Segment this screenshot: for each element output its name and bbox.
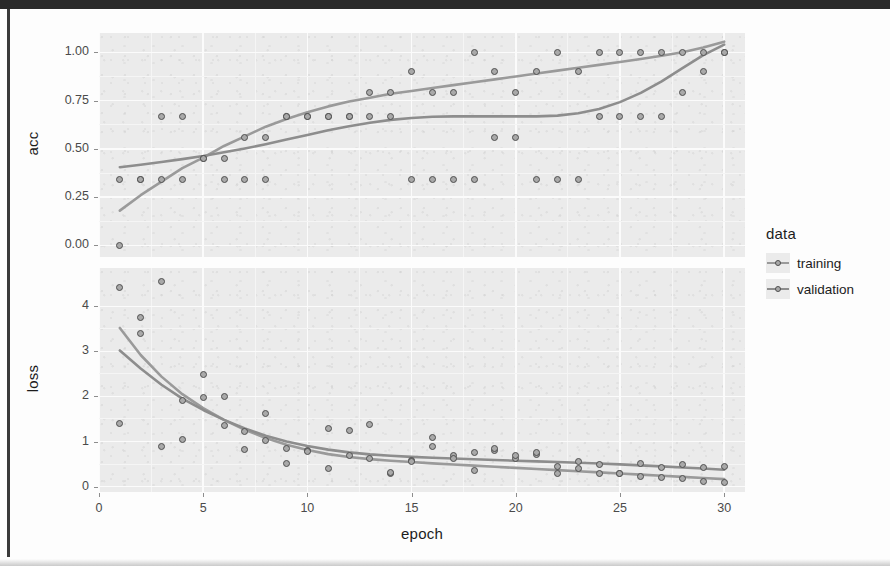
data-point: [637, 460, 644, 467]
data-point: [450, 455, 457, 462]
y-tick-mark: [94, 396, 98, 397]
data-point: [616, 470, 623, 477]
data-point: [221, 422, 228, 429]
gridline-vertical-minor: [359, 33, 360, 257]
data-point: [283, 113, 290, 120]
figure-plot-area: 0.000.250.500.751.00acc01234loss05101520…: [0, 0, 890, 566]
gridline-vertical: [202, 33, 204, 257]
data-point: [116, 284, 123, 291]
gridline-horizontal: [99, 306, 745, 308]
data-point: [262, 176, 269, 183]
data-point: [116, 242, 123, 249]
y-tick-mark: [94, 351, 98, 352]
x-tick-mark: [620, 493, 621, 497]
gridline-horizontal-minor: [99, 221, 745, 222]
scanned-page: 0.000.250.500.751.00acc01234loss05101520…: [0, 0, 890, 566]
data-point: [137, 176, 144, 183]
data-point: [575, 176, 582, 183]
gridline-vertical: [619, 33, 621, 257]
x-tick-mark: [516, 493, 517, 497]
data-point: [637, 473, 644, 480]
data-point: [283, 445, 290, 452]
gridline-vertical-minor: [255, 33, 256, 257]
gridline-horizontal: [99, 196, 745, 198]
data-point: [346, 427, 353, 434]
gridline-vertical-minor: [255, 268, 256, 492]
gridline-vertical: [411, 33, 413, 257]
data-point: [221, 393, 228, 400]
data-point: [450, 89, 457, 96]
gridline-vertical-minor: [567, 33, 568, 257]
data-point: [596, 49, 603, 56]
legend-item-training[interactable]: training: [766, 252, 884, 274]
x-tick-label: 10: [282, 501, 332, 515]
data-point: [491, 134, 498, 141]
y-tick-label: 0.25: [37, 189, 89, 203]
gridline-vertical: [723, 33, 725, 257]
data-point: [158, 278, 165, 285]
data-point: [304, 448, 311, 455]
data-point: [533, 176, 540, 183]
trend-line-validation: [120, 350, 724, 469]
data-point: [679, 461, 686, 468]
data-point: [241, 134, 248, 141]
x-tick-mark: [724, 493, 725, 497]
legend-label-validation: validation: [797, 282, 854, 297]
data-point: [200, 155, 207, 162]
gridline-vertical: [99, 268, 100, 492]
x-tick-mark: [203, 493, 204, 497]
gridline-vertical: [202, 268, 204, 492]
legend-key-validation-icon: [766, 279, 790, 299]
data-point: [491, 68, 498, 75]
y-tick-mark: [94, 245, 98, 246]
data-point: [408, 68, 415, 75]
data-point: [616, 49, 623, 56]
legend-item-validation[interactable]: validation: [766, 278, 884, 300]
data-point: [429, 443, 436, 450]
gridline-horizontal-minor: [99, 373, 745, 374]
data-point: [637, 113, 644, 120]
y-axis-title-loss: loss: [24, 344, 41, 414]
data-point: [346, 452, 353, 459]
trend-line-layer-loss: [99, 268, 745, 492]
gridline-vertical: [307, 33, 309, 257]
data-point: [137, 314, 144, 321]
y-tick-label: 1.00: [37, 44, 89, 58]
y-tick-mark: [94, 442, 98, 443]
data-point: [554, 49, 561, 56]
data-point: [262, 410, 269, 417]
data-point: [179, 113, 186, 120]
scan-bottom-smudge: [0, 559, 890, 566]
gridline-vertical-minor: [567, 268, 568, 492]
y-tick-label: 0.00: [37, 237, 89, 251]
data-point: [596, 461, 603, 468]
data-point: [700, 478, 707, 485]
data-point: [221, 155, 228, 162]
data-point: [179, 397, 186, 404]
data-point: [700, 68, 707, 75]
data-point: [658, 49, 665, 56]
y-tick-mark: [94, 306, 98, 307]
data-point: [241, 446, 248, 453]
data-point: [158, 113, 165, 120]
data-point: [366, 421, 373, 428]
legend-key-training-icon: [766, 253, 790, 273]
panel-scan-noise: [99, 33, 745, 257]
y-tick-mark: [94, 487, 98, 488]
gridline-vertical-minor: [672, 33, 673, 257]
data-point: [512, 452, 519, 459]
data-point: [366, 113, 373, 120]
x-tick-mark: [412, 493, 413, 497]
data-point: [637, 49, 644, 56]
gridline-horizontal-minor: [99, 124, 745, 125]
x-tick-label: 20: [491, 501, 541, 515]
data-point: [575, 465, 582, 472]
data-point: [366, 89, 373, 96]
data-point: [325, 465, 332, 472]
legend-label-training: training: [797, 256, 841, 271]
gridline-horizontal: [99, 441, 745, 443]
gridline-vertical-minor: [151, 268, 152, 492]
data-point: [658, 474, 665, 481]
y-axis-title-acc: acc: [24, 109, 41, 179]
gridline-vertical: [307, 268, 309, 492]
